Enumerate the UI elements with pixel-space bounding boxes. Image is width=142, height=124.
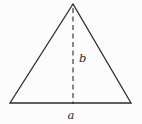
triangle-diagram-canvas: b a — [0, 0, 142, 124]
triangle-shape — [10, 4, 131, 103]
triangle-diagram: b a — [0, 0, 142, 124]
height-label: b — [79, 51, 86, 65]
base-label: a — [68, 108, 75, 122]
